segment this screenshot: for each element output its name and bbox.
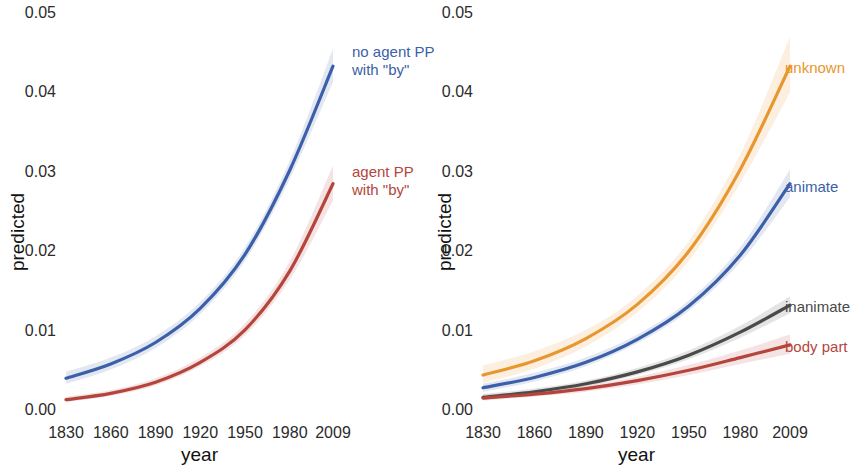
annotation-agent-pp-line2: with "by" <box>352 181 414 199</box>
y-tick-label: 0.03 <box>8 163 56 181</box>
y-tick-label: 0.04 <box>425 83 473 101</box>
y-tick-label: 0.01 <box>425 322 473 340</box>
y-tick-label: 0.04 <box>8 83 56 101</box>
annotation-inanimate: inanimate <box>785 298 850 316</box>
y-tick-label: 0.02 <box>425 242 473 260</box>
x-tick-label: 1950 <box>227 424 263 442</box>
confidence-band-no-agent-pp-with-by- <box>66 49 333 384</box>
x-tick-label: 1980 <box>722 424 758 442</box>
x-tick-label: 1980 <box>272 424 308 442</box>
x-tick-label: 2009 <box>772 424 808 442</box>
x-tick-label: 1920 <box>620 424 656 442</box>
x-tick-label: 2009 <box>315 424 351 442</box>
y-tick-label: 0.05 <box>425 4 473 22</box>
left-panel: predicted year 0.000.010.020.030.040.05 … <box>0 0 428 468</box>
x-tick-label: 1830 <box>465 424 501 442</box>
y-tick-label: 0.03 <box>425 163 473 181</box>
y-tick-label: 0.02 <box>8 242 56 260</box>
x-tick-label: 1920 <box>182 424 218 442</box>
annotation-body-part: body part <box>785 338 848 356</box>
left-x-axis-label: year <box>181 444 218 466</box>
series-line-no-agent-pp-with-by- <box>66 66 333 378</box>
annotation-no-agent-pp-line2: with "by" <box>352 61 435 79</box>
annotation-agent-pp: agent PP with "by" <box>352 163 414 198</box>
annotation-unknown-label: unknown <box>785 59 845 77</box>
annotation-no-agent-pp-line1: no agent PP <box>352 43 435 61</box>
x-tick-label: 1860 <box>93 424 129 442</box>
annotation-inanimate-label: inanimate <box>785 298 850 316</box>
right-panel: predicted year 0.000.010.020.030.040.05 … <box>427 0 855 468</box>
x-tick-label: 1830 <box>48 424 84 442</box>
annotation-animate: animate <box>785 178 838 196</box>
annotation-body-part-label: body part <box>785 338 848 356</box>
right-x-axis-label: year <box>618 444 655 466</box>
annotation-unknown: unknown <box>785 59 845 77</box>
x-tick-label: 1890 <box>568 424 604 442</box>
x-tick-label: 1890 <box>138 424 174 442</box>
x-tick-label: 1950 <box>671 424 707 442</box>
chart-figure: predicted year 0.000.010.020.030.040.05 … <box>0 0 855 468</box>
y-tick-label: 0.00 <box>8 401 56 419</box>
annotation-no-agent-pp: no agent PP with "by" <box>352 43 435 78</box>
x-tick-label: 1860 <box>517 424 553 442</box>
annotation-animate-label: animate <box>785 178 838 196</box>
y-tick-label: 0.05 <box>8 4 56 22</box>
y-tick-label: 0.00 <box>425 401 473 419</box>
annotation-agent-pp-line1: agent PP <box>352 163 414 181</box>
y-tick-label: 0.01 <box>8 322 56 340</box>
